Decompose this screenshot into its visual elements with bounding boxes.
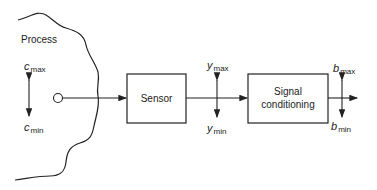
c-min-label: cmin (24, 121, 43, 133)
c-symbol: c (24, 121, 30, 133)
process-label: Process (21, 34, 57, 45)
measurement-point-icon (54, 94, 63, 103)
y-max-sub: max (214, 64, 229, 73)
y-max-label: ymax (207, 59, 229, 71)
y-symbol: y (207, 122, 213, 134)
c-max-label: cmax (24, 60, 46, 72)
y-symbol: y (207, 59, 213, 71)
b-max-label: bmax (333, 62, 355, 74)
c-symbol: c (24, 60, 30, 72)
signal-conditioning-label: Signal conditioning (248, 85, 328, 111)
sensor-signal-diagram: Process cmax cmin Sensor ymax ymin Signa… (0, 0, 377, 190)
c-min-sub: min (31, 126, 44, 135)
signal-conditioning-line1: Signal (248, 85, 328, 98)
y-min-label: ymin (207, 122, 226, 134)
b-min-label: bmin (331, 120, 351, 132)
b-symbol: b (331, 120, 337, 132)
y-min-sub: min (214, 127, 227, 136)
b-symbol: b (333, 62, 339, 74)
c-max-sub: max (31, 65, 46, 74)
b-min-sub: min (338, 125, 351, 134)
sensor-label: Sensor (127, 92, 186, 105)
signal-conditioning-line2: conditioning (248, 98, 328, 111)
b-max-sub: max (340, 67, 355, 76)
